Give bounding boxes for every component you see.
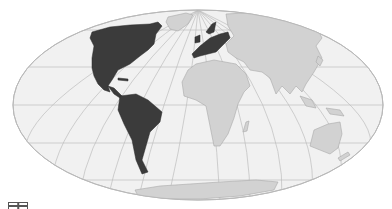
partially-visible-icon[interactable] bbox=[8, 202, 28, 209]
world-map bbox=[0, 0, 392, 209]
